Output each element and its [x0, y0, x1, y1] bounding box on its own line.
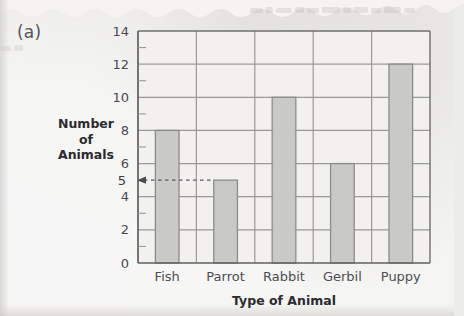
y-tick-label-6: 6: [121, 156, 129, 171]
x-tick-label-parrot: Parrot: [206, 269, 244, 284]
bar-gerbil: [331, 164, 355, 263]
y-axis-tick-labels: 02468101214: [112, 24, 129, 271]
y-tick-label-8: 8: [121, 123, 129, 138]
bar-rabbit: [272, 97, 296, 263]
x-tick-label-fish: Fish: [155, 269, 180, 284]
y-tick-label-4: 4: [121, 189, 129, 204]
y-tick-label-14: 14: [112, 24, 129, 39]
y-tick-label-0: 0: [121, 256, 129, 271]
x-tick-label-gerbil: Gerbil: [323, 269, 362, 284]
annotation-value-label: 5: [118, 173, 126, 188]
x-tick-label-puppy: Puppy: [381, 269, 421, 284]
bar-puppy: [389, 64, 413, 263]
bar-parrot: [214, 180, 238, 263]
bar-fish: [155, 130, 179, 263]
x-axis-category-labels: FishParrotRabbitGerbilPuppy: [155, 269, 422, 284]
y-tick-label-12: 12: [112, 57, 129, 72]
y-tick-label-10: 10: [112, 90, 129, 105]
y-tick-label-2: 2: [121, 222, 129, 237]
x-tick-label-rabbit: Rabbit: [263, 269, 305, 284]
